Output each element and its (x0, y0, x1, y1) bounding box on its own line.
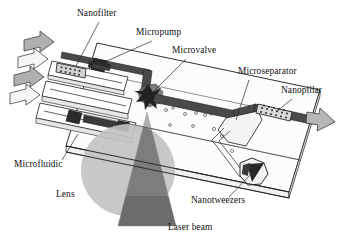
label-nanotweezers: Nanotweezers (191, 195, 246, 205)
label-nanofilter: Nanofilter (77, 8, 117, 18)
label-lens: Lens (56, 189, 75, 199)
label-microvalve: Microvalve (172, 45, 216, 55)
label-micropump: Micropump (136, 27, 181, 37)
label-nanopillar: Nanopillar (281, 85, 323, 95)
lab-on-chip-figure: Nanofilter Micropump Microvalve Microsep… (0, 0, 347, 246)
figure-canvas: Nanofilter Micropump Microvalve Microsep… (0, 0, 347, 246)
label-laser-beam: Laser beam (168, 222, 213, 232)
label-microfluidic: Microfluidic (14, 159, 63, 169)
label-microseparator: Microseparator (238, 66, 297, 76)
